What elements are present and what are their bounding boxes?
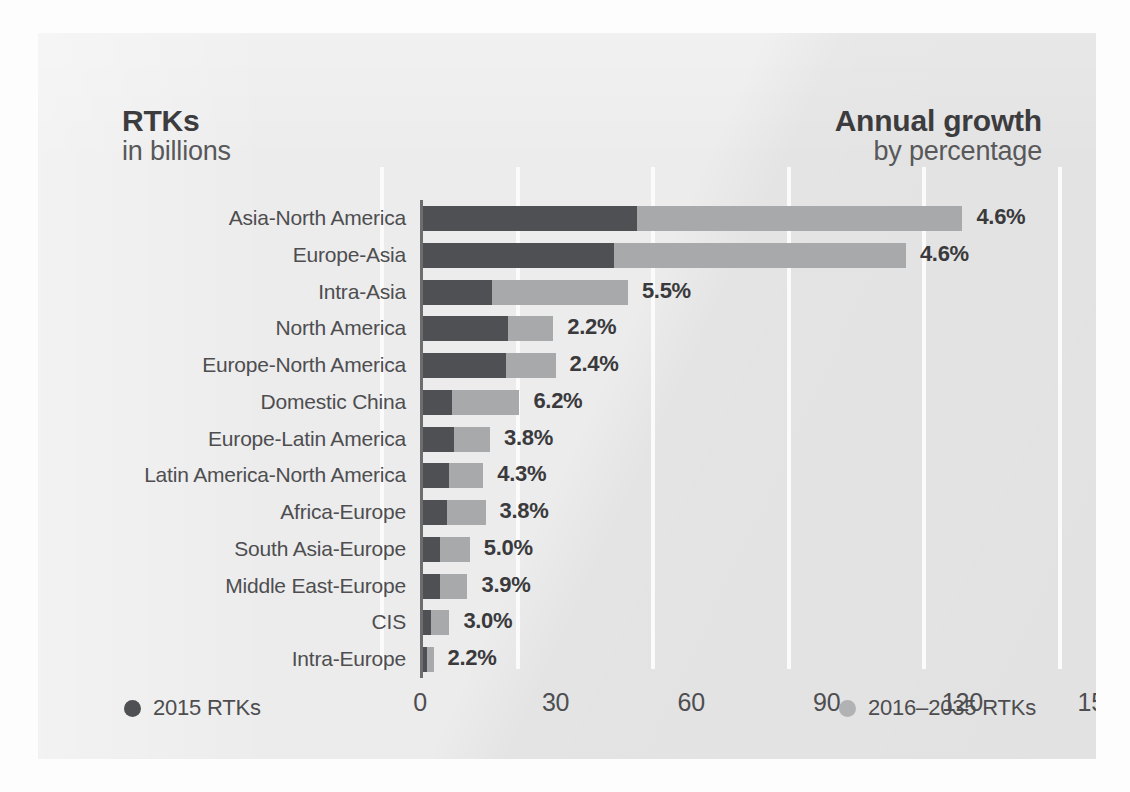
category-label: North America — [134, 316, 406, 340]
bar-segment-2016-2035 — [454, 427, 490, 452]
growth-percent-label: 5.5% — [642, 278, 691, 304]
growth-percent-label: 6.2% — [533, 388, 582, 414]
stacked-bar — [420, 316, 553, 341]
stacked-bar — [420, 574, 467, 599]
growth-percent-label: 5.0% — [484, 535, 533, 561]
bar-segment-2015 — [420, 463, 449, 488]
category-labels: Asia-North AmericaEurope-AsiaIntra-AsiaN… — [134, 200, 406, 678]
bar-segment-2016-2035 — [431, 610, 449, 635]
bar-row: 4.6% — [420, 200, 1096, 237]
legend-dot-2015-icon — [124, 700, 141, 717]
bar-segment-2016-2035 — [637, 206, 962, 231]
growth-percent-label: 2.2% — [448, 645, 497, 671]
bar-segment-2015 — [420, 537, 440, 562]
category-label: Africa-Europe — [134, 500, 406, 524]
growth-percent-label: 4.6% — [976, 204, 1025, 230]
stacked-bar — [420, 500, 486, 525]
stacked-bar — [420, 280, 628, 305]
bar-row: 3.8% — [420, 421, 1096, 458]
bar-segment-2016-2035 — [440, 574, 467, 599]
growth-percent-label: 4.3% — [497, 461, 546, 487]
category-label: CIS — [134, 610, 406, 634]
bar-row: 6.2% — [420, 384, 1096, 421]
legend-label-2015: 2015 RTKs — [153, 695, 261, 721]
bar-row: 5.0% — [420, 531, 1096, 568]
stacked-bar — [420, 390, 519, 415]
stacked-bar — [420, 463, 483, 488]
bar-segment-2016-2035 — [452, 390, 520, 415]
growth-percent-label: 4.6% — [920, 241, 969, 267]
bar-segment-2015 — [420, 574, 440, 599]
bar-segment-2016-2035 — [427, 647, 434, 672]
bar-row: 4.3% — [420, 457, 1096, 494]
chart-page: RTKs in billions Annual growth by percen… — [0, 0, 1130, 792]
category-label: Intra-Asia — [134, 280, 406, 304]
bar-segment-2015 — [420, 243, 614, 268]
x-tick-label: 90 — [813, 688, 840, 717]
stacked-bar — [420, 427, 490, 452]
bar-row: 2.2% — [420, 641, 1096, 678]
bar-row: 2.4% — [420, 347, 1096, 384]
stacked-bar — [420, 243, 906, 268]
growth-percent-label: 3.9% — [481, 572, 530, 598]
x-tick-label: 60 — [677, 688, 704, 717]
bar-segment-2016-2035 — [492, 280, 628, 305]
category-label: Europe-North America — [134, 353, 406, 377]
growth-percent-label: 3.0% — [463, 608, 512, 634]
bar-segment-2016-2035 — [508, 316, 553, 341]
legend-dot-2016-2035-icon — [839, 700, 856, 717]
growth-subtitle: by percentage — [835, 137, 1042, 166]
bar-row: 5.5% — [420, 274, 1096, 311]
category-label: South Asia-Europe — [134, 537, 406, 561]
growth-percent-label: 3.8% — [500, 498, 549, 524]
growth-percent-label: 2.4% — [570, 351, 619, 377]
category-label: Asia-North America — [134, 206, 406, 230]
bar-row: 3.9% — [420, 568, 1096, 605]
growth-percent-label: 3.8% — [504, 425, 553, 451]
legend-item-2016-2035: 2016–2035 RTKs — [839, 695, 1036, 721]
growth-percent-label: 2.2% — [567, 314, 616, 340]
legend-item-2015: 2015 RTKs — [124, 695, 261, 721]
y-axis-spine — [420, 200, 423, 678]
chart-panel: RTKs in billions Annual growth by percen… — [38, 33, 1096, 759]
category-label: Europe-Latin America — [134, 427, 406, 451]
category-label: Middle East-Europe — [134, 574, 406, 598]
bar-rows: 4.6%4.6%5.5%2.2%2.4%6.2%3.8%4.3%3.8%5.0%… — [420, 200, 1096, 678]
bar-segment-2015 — [420, 500, 447, 525]
category-label: Latin America-North America — [134, 463, 406, 487]
bar-segment-2015 — [420, 316, 508, 341]
bar-segment-2015 — [420, 390, 452, 415]
stacked-bar — [420, 206, 962, 231]
bar-row: 3.8% — [420, 494, 1096, 531]
category-label: Domestic China — [134, 390, 406, 414]
category-label: Europe-Asia — [134, 243, 406, 267]
bar-segment-2016-2035 — [440, 537, 469, 562]
growth-title: Annual growth — [835, 105, 1042, 137]
bar-row: 2.2% — [420, 310, 1096, 347]
x-tick-label: 0 — [413, 688, 427, 717]
bar-row: 3.0% — [420, 604, 1096, 641]
bar-segment-2016-2035 — [506, 353, 556, 378]
bar-segment-2015 — [420, 427, 454, 452]
bar-row: 4.6% — [420, 237, 1096, 274]
x-tick-label: 150 — [1077, 688, 1096, 717]
bar-segment-2016-2035 — [614, 243, 906, 268]
stacked-bar — [420, 610, 449, 635]
stacked-bar — [420, 537, 470, 562]
left-heading: RTKs in billions — [122, 105, 231, 165]
stacked-bar — [420, 353, 556, 378]
legend-label-2016-2035: 2016–2035 RTKs — [868, 695, 1036, 721]
bar-segment-2016-2035 — [449, 463, 483, 488]
rtks-subtitle: in billions — [122, 137, 231, 166]
bar-segment-2015 — [420, 280, 492, 305]
x-tick-label: 30 — [542, 688, 569, 717]
plot-area: 4.6%4.6%5.5%2.2%2.4%6.2%3.8%4.3%3.8%5.0%… — [420, 200, 1096, 678]
bar-segment-2015 — [420, 353, 506, 378]
rtks-title: RTKs — [122, 105, 231, 137]
bar-segment-2016-2035 — [447, 500, 485, 525]
category-label: Intra-Europe — [134, 647, 406, 671]
right-heading: Annual growth by percentage — [835, 105, 1042, 165]
bar-segment-2015 — [420, 206, 637, 231]
